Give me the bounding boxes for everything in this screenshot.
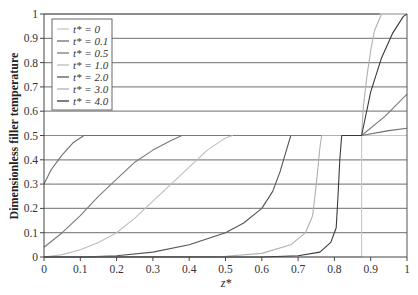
line-chart: 00.10.20.30.40.50.60.70.80.91 00.10.20.3… [0,0,418,295]
y-tick-label: 0.4 [24,154,39,166]
x-tick-label: 0 [41,263,47,275]
x-tick-label: 0.1 [73,263,88,275]
legend-label: t* = 3.0 [73,83,109,95]
series-line [44,136,291,258]
legend-label: t* = 0 [73,23,100,35]
x-axis-title: z* [220,276,232,290]
x-tick-label: 1 [404,263,410,275]
x-tick-label: 0.4 [182,263,197,275]
x-axis-ticks: 00.10.20.30.40.50.60.70.80.91 [41,257,410,275]
legend-label: t* = 1.0 [73,59,109,71]
x-tick-label: 0.7 [291,263,306,275]
y-tick-label: 0.5 [24,130,39,142]
y-axis-title: Dimensionless filler temperature [7,52,21,220]
series-line [44,128,407,184]
y-tick-label: 0.2 [24,202,39,214]
legend-label: t* = 0.5 [73,47,109,59]
y-tick-label: 0 [32,251,38,263]
legend: t* = 0t* = 0.1t* = 0.5t* = 1.0t* = 2.0t*… [52,19,112,110]
x-tick-label: 0.3 [146,263,161,275]
x-tick-label: 0.2 [109,263,124,275]
y-axis-ticks: 00.10.20.30.40.50.60.70.80.91 [24,8,44,263]
y-tick-label: 0.3 [24,178,39,190]
legend-label: t* = 0.1 [73,35,108,47]
y-tick-label: 1 [32,8,38,20]
y-tick-label: 0.6 [24,105,39,117]
x-tick-label: 0.6 [255,263,270,275]
y-tick-label: 0.7 [24,81,39,93]
y-tick-label: 0.1 [24,227,39,239]
series-line [44,94,407,247]
series-line [44,136,233,258]
y-tick-label: 0.8 [24,57,39,69]
y-tick-label: 0.9 [24,32,39,44]
x-tick-label: 0.5 [218,263,233,275]
legend-label: t* = 2.0 [73,71,109,83]
legend-label: t* = 4.0 [73,95,109,107]
x-tick-label: 0.9 [364,263,379,275]
x-tick-label: 0.8 [327,263,342,275]
